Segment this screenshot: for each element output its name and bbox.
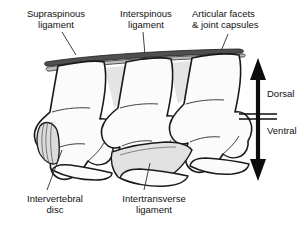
leader-line-supraspinous	[62, 32, 76, 55]
arrow-head-up-icon	[250, 58, 266, 80]
intervertebral-disc	[37, 122, 59, 164]
label-supraspinous-ligament: Supraspinous ligament	[8, 8, 104, 30]
label-articular-facets: Articular facets & joint capsules	[192, 8, 302, 30]
label-intervertebral-disc: Intervertebral disc	[6, 193, 104, 215]
label-dorsal: Dorsal	[267, 88, 304, 99]
arrow-head-down-icon	[250, 159, 266, 181]
transverse-process-2	[120, 169, 188, 186]
label-intertransverse-ligament: Intertransverse ligament	[104, 193, 204, 215]
label-interspinous-ligament: Interspinous ligament	[104, 8, 188, 30]
label-ventral: Ventral	[267, 125, 304, 136]
intervertebral-disc-outline	[37, 123, 59, 164]
anatomical-figure: Supraspinous ligament Interspinous ligam…	[0, 0, 304, 226]
